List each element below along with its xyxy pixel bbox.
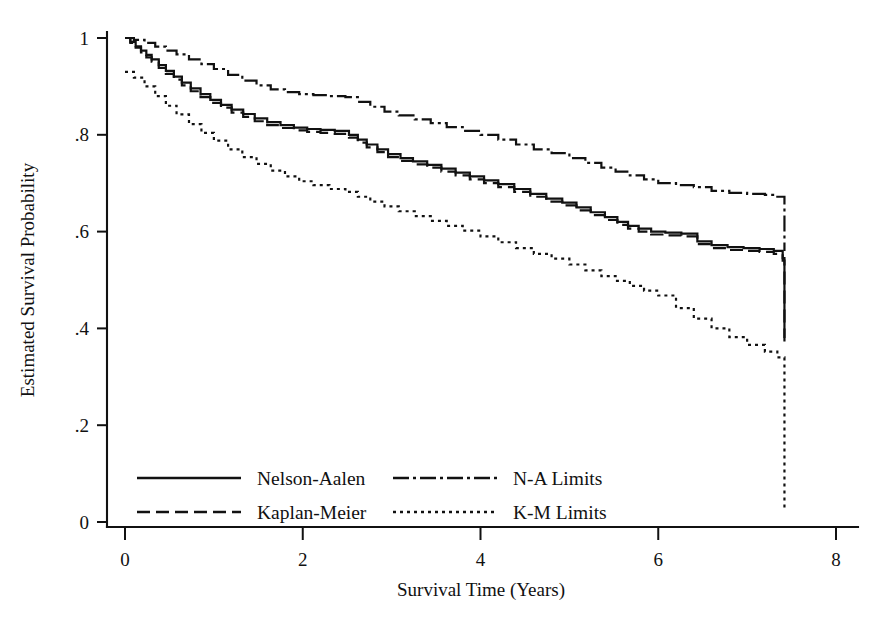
y-tick-label: .8: [75, 124, 89, 145]
survival-curve-figure: 0.2.4.6.81 Estimated Survival Probabilit…: [0, 0, 879, 634]
y-tick-label: .2: [75, 415, 89, 436]
x-tick-group: 02468: [120, 527, 841, 570]
x-tick-label: 6: [654, 549, 664, 570]
x-tick-label: 8: [831, 549, 841, 570]
curve-kaplan-meier: [125, 38, 784, 342]
chart-legend: Nelson-AalenKaplan-MeierN-A LimitsK-M Li…: [137, 468, 607, 523]
x-axis-title: Survival Time (Years): [397, 579, 565, 601]
legend-label-nelson-aalen: Nelson-Aalen: [257, 468, 366, 489]
x-axis-group: 02468 Survival Time (Years): [107, 527, 858, 601]
y-tick-label: .4: [75, 318, 90, 339]
y-tick-label: .6: [75, 221, 89, 242]
legend-label-kaplan-meier: Kaplan-Meier: [257, 502, 367, 523]
x-tick-label: 4: [476, 549, 486, 570]
chart-canvas: 0.2.4.6.81 Estimated Survival Probabilit…: [0, 0, 879, 634]
y-tick-label: 1: [80, 28, 90, 49]
curve-k-m-limits: [125, 72, 784, 508]
y-tick-label: 0: [80, 512, 90, 533]
curve-n-a-limits: [125, 38, 784, 251]
curve-group: [125, 38, 784, 507]
legend-label-k-m-limits: K-M Limits: [513, 502, 607, 523]
x-tick-label: 0: [120, 549, 130, 570]
y-axis-group: 0.2.4.6.81 Estimated Survival Probabilit…: [17, 28, 108, 533]
y-axis-title: Estimated Survival Probability: [17, 162, 38, 397]
y-tick-group: 0.2.4.6.81: [75, 28, 108, 533]
x-tick-label: 2: [298, 549, 308, 570]
curve-nelson-aalen: [125, 38, 784, 338]
legend-label-n-a-limits: N-A Limits: [513, 468, 602, 489]
